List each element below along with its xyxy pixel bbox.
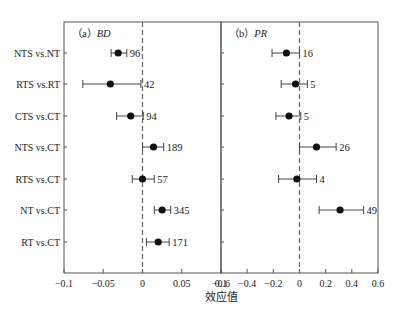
effect-estimate: 5 bbox=[281, 79, 315, 90]
mean-marker bbox=[292, 80, 299, 87]
sample-size-label: 96 bbox=[130, 48, 141, 59]
effect-estimate: 171 bbox=[146, 237, 188, 248]
effect-estimate: 345 bbox=[154, 205, 189, 216]
forest-plot-svg: NTS vs.NTRTS vs.RTCTS vs.CTNTS vs.CTRTS … bbox=[0, 0, 402, 321]
mean-marker bbox=[139, 175, 146, 182]
panel-titles: （a）BD（b）PR bbox=[72, 28, 268, 39]
sample-size-label: 16 bbox=[303, 48, 314, 59]
effect-estimate: 96 bbox=[111, 48, 140, 59]
effect-estimate: 49 bbox=[319, 205, 377, 216]
effect-estimate: 42 bbox=[83, 79, 155, 90]
panel-title: （a）BD bbox=[72, 28, 111, 39]
sample-size-label: 26 bbox=[339, 142, 350, 153]
effect-estimate: 189 bbox=[143, 142, 183, 153]
y-axis-labels: NTS vs.NTRTS vs.RTCTS vs.CTNTS vs.CTRTS … bbox=[14, 48, 224, 248]
x-tick-label: −0.1 bbox=[55, 278, 73, 289]
y-category-label: CTS vs.CT bbox=[15, 111, 60, 122]
sample-size-label: 57 bbox=[157, 174, 168, 185]
y-category-label: NT vs.CT bbox=[20, 205, 60, 216]
sample-size-label: 49 bbox=[367, 205, 378, 216]
panel-title: （b）PR bbox=[229, 28, 268, 39]
y-category-label: RT vs.CT bbox=[21, 237, 60, 248]
y-category-label: RTS vs.RT bbox=[16, 79, 60, 90]
x-tick-label: 0.4 bbox=[346, 278, 359, 289]
y-category-label: RTS vs.CT bbox=[16, 174, 60, 185]
effect-estimate: 4 bbox=[279, 174, 326, 185]
sample-size-label: 189 bbox=[167, 142, 183, 153]
mean-marker bbox=[159, 206, 166, 213]
sample-size-label: 42 bbox=[144, 79, 155, 90]
effect-estimate: 16 bbox=[272, 48, 313, 59]
y-category-label: NTS vs.CT bbox=[14, 142, 60, 153]
x-tick-label: 0.6 bbox=[372, 278, 385, 289]
x-axis-ticks: −0.1−0.0500.050.1−0.6−0.4−0.200.20.40.6 bbox=[55, 269, 384, 289]
effect-estimate: 94 bbox=[117, 111, 158, 122]
mean-marker bbox=[293, 175, 300, 182]
x-tick-label: −0.2 bbox=[264, 278, 282, 289]
mean-marker bbox=[107, 80, 114, 87]
x-axis-label: 效应值 bbox=[205, 290, 238, 303]
mean-marker bbox=[127, 112, 134, 119]
sample-size-label: 171 bbox=[172, 237, 188, 248]
mean-marker bbox=[283, 49, 290, 56]
sample-size-label: 5 bbox=[304, 111, 309, 122]
mean-marker bbox=[150, 143, 157, 150]
data-series: 96429418957345171165526449 bbox=[83, 48, 377, 248]
x-tick-label: −0.05 bbox=[92, 278, 115, 289]
mean-marker bbox=[155, 238, 162, 245]
mean-marker bbox=[336, 206, 343, 213]
forest-plot: NTS vs.NTRTS vs.RTCTS vs.CTNTS vs.CTRTS … bbox=[0, 0, 402, 321]
mean-marker bbox=[285, 112, 292, 119]
mean-marker bbox=[313, 143, 320, 150]
x-tick-label: 0.05 bbox=[173, 278, 191, 289]
y-category-label: NTS vs.NT bbox=[14, 48, 60, 59]
sample-size-label: 94 bbox=[146, 111, 157, 122]
sample-size-label: 4 bbox=[320, 174, 326, 185]
mean-marker bbox=[115, 49, 122, 56]
effect-estimate: 57 bbox=[132, 174, 167, 185]
x-tick-label: 0 bbox=[297, 278, 302, 289]
effect-estimate: 26 bbox=[300, 142, 350, 153]
sample-size-label: 345 bbox=[174, 205, 190, 216]
x-tick-label: −0.6 bbox=[212, 278, 230, 289]
x-tick-label: 0 bbox=[140, 278, 145, 289]
effect-estimate: 5 bbox=[276, 111, 309, 122]
sample-size-label: 5 bbox=[310, 79, 315, 90]
x-tick-label: −0.4 bbox=[238, 278, 256, 289]
x-tick-label: 0.2 bbox=[319, 278, 332, 289]
